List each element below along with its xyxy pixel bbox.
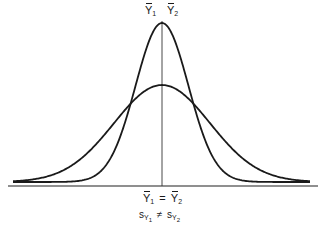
wide-distribution-curve bbox=[13, 85, 310, 181]
mean-label-1: Y1 bbox=[145, 5, 156, 17]
mean-symbol: Y bbox=[145, 5, 152, 16]
sd-unequal-label: sY1 ≠ sY2 bbox=[139, 210, 180, 223]
subscript: 2 bbox=[174, 10, 178, 17]
not-equal-sign: ≠ bbox=[157, 209, 163, 220]
mean-symbol: Y bbox=[171, 193, 178, 204]
mean-symbol: Y bbox=[143, 193, 150, 204]
mean-label-2: Y2 bbox=[167, 5, 178, 17]
narrow-distribution-curve bbox=[13, 23, 310, 182]
subscript: 1 bbox=[150, 198, 154, 205]
subscript: 2 bbox=[178, 198, 182, 205]
subscript: 1 bbox=[152, 10, 156, 17]
equals-sign: = bbox=[159, 192, 165, 204]
mean-symbol: Y bbox=[167, 5, 174, 16]
sub-subscript: 2 bbox=[177, 217, 180, 223]
sub-subscript: 1 bbox=[149, 217, 152, 223]
means-equal-label: Y1 = Y2 bbox=[143, 193, 182, 205]
